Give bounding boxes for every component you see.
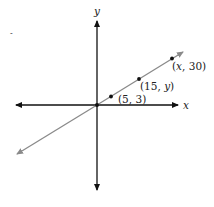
y-axis-label: y <box>93 5 101 17</box>
origin-point <box>95 103 99 107</box>
point-label-x-30: (x, 30) <box>172 60 206 72</box>
x-axis-label: x <box>183 99 189 111</box>
stray-mark: - <box>10 29 13 38</box>
diagram-svg: y x (5, 3) (15, y) (x, 30) - <box>0 0 214 207</box>
point-label-5-3: (5, 3) <box>118 93 146 105</box>
linear-line <box>17 52 183 154</box>
point-label-15-y: (15, y) <box>140 80 174 92</box>
point-5-3 <box>109 95 113 99</box>
coordinate-plane-diagram: y x (5, 3) (15, y) (x, 30) - <box>0 0 214 207</box>
